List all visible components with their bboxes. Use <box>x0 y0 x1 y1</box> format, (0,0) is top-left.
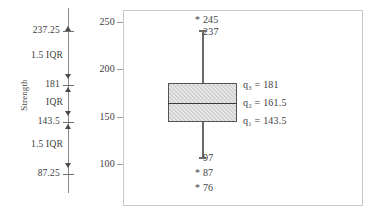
annotation-tick-lower-fence <box>63 174 74 175</box>
median-line <box>168 103 237 104</box>
outlier-label-245: * 245 <box>195 14 219 25</box>
y-tick-label-100: 100 <box>85 158 115 169</box>
annotation-label-q1: 143.5 <box>18 116 60 126</box>
quartile-label-q1: q₁ = 143.5 <box>243 115 287 126</box>
y-tick-100 <box>117 164 123 165</box>
arrow-down-icon <box>65 111 71 116</box>
annotation-span-iqr-label: IQR <box>23 97 63 107</box>
whisker-label-237: 237 <box>203 26 219 37</box>
arrow-up-icon <box>65 87 71 92</box>
annotation-tick-upper-fence <box>63 31 74 32</box>
arrow-down-icon <box>65 163 71 168</box>
outlier-label-76: * 76 <box>195 182 213 193</box>
arrow-up-icon <box>65 124 71 129</box>
y-tick-label-200: 200 <box>85 63 115 74</box>
whisker-label-97: 97 <box>203 152 213 163</box>
outlier-label-87: * 87 <box>195 167 213 178</box>
boxplot-figure: Strength 237.25 1.5 IQR 181 IQR 143.5 1.… <box>0 0 379 217</box>
y-tick-label-150: 150 <box>85 111 115 122</box>
quartile-label-q3: q₃ = 181 <box>243 79 279 90</box>
arrow-down-icon <box>65 74 71 79</box>
y-tick-250 <box>117 22 123 23</box>
arrow-up-icon <box>65 26 71 31</box>
y-tick-label-250: 250 <box>85 16 115 27</box>
annotation-label-q3: 181 <box>18 79 60 89</box>
y-tick-200 <box>117 69 123 70</box>
annotation-tick-q3 <box>63 85 74 86</box>
y-tick-150 <box>117 117 123 118</box>
annotation-tick-q1 <box>63 122 74 123</box>
annotation-span-upper-label: 1.5 IQR <box>13 50 63 60</box>
quartile-label-q2: q₂ = 161.5 <box>243 97 287 108</box>
plot-panel <box>123 10 363 206</box>
annotation-span-lower-label: 1.5 IQR <box>13 139 63 149</box>
upper-whisker <box>202 30 204 83</box>
annotation-label-lower-fence: 87.25 <box>18 168 60 178</box>
annotation-label-upper-fence: 237.25 <box>18 25 60 35</box>
